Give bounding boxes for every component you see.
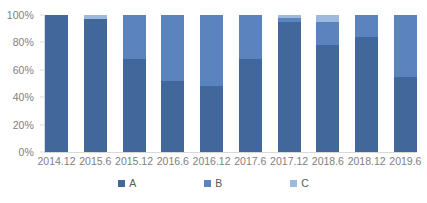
bar-group[interactable] bbox=[316, 15, 339, 152]
bar-segment-a[interactable] bbox=[161, 81, 184, 152]
y-axis: 100%80%60%40%20%0% bbox=[0, 0, 40, 203]
legend-item-a[interactable]: A bbox=[118, 178, 136, 189]
bar-group[interactable] bbox=[123, 15, 146, 152]
legend-label: B bbox=[215, 178, 222, 189]
y-tick-mark bbox=[40, 152, 44, 153]
x-tick-label: 2017.6 bbox=[239, 155, 262, 171]
y-tick-mark bbox=[40, 69, 44, 70]
bar-segment-a[interactable] bbox=[45, 15, 68, 152]
bar-segment-a[interactable] bbox=[239, 59, 262, 152]
bar-segment-a[interactable] bbox=[316, 45, 339, 152]
bar-group[interactable] bbox=[355, 15, 378, 152]
bar-segment-b[interactable] bbox=[316, 22, 339, 45]
y-tick-mark bbox=[40, 124, 44, 125]
x-tick-label: 2018.12 bbox=[355, 155, 378, 171]
x-tick-label: 2018.6 bbox=[316, 155, 339, 171]
x-tick-label-text: 2016.12 bbox=[193, 155, 231, 167]
bar-segment-a[interactable] bbox=[394, 77, 417, 152]
bar-segment-c[interactable] bbox=[316, 15, 339, 22]
x-tick-label-text: 2018.6 bbox=[312, 155, 344, 167]
x-axis: 2014.122015.62015.122016.62016.122017.62… bbox=[45, 155, 417, 171]
x-tick-label: 2015.6 bbox=[84, 155, 107, 171]
x-tick-label-text: 2014.12 bbox=[38, 155, 76, 167]
bar-group[interactable] bbox=[45, 15, 68, 152]
bar-group[interactable] bbox=[278, 15, 301, 152]
y-tick-label: 60% bbox=[13, 64, 34, 76]
x-tick-label: 2014.12 bbox=[45, 155, 68, 171]
bar-segment-b[interactable] bbox=[394, 15, 417, 77]
legend-label: A bbox=[129, 178, 136, 189]
y-tick-label: 100% bbox=[7, 9, 34, 21]
bar-segment-b[interactable] bbox=[123, 15, 146, 59]
x-tick-label: 2019.6 bbox=[394, 155, 417, 171]
chart-legend: ABC bbox=[0, 178, 427, 189]
bar-group[interactable] bbox=[200, 15, 223, 152]
bar-segment-a[interactable] bbox=[355, 37, 378, 152]
x-tick-label: 2015.12 bbox=[123, 155, 146, 171]
x-tick-label-text: 2017.6 bbox=[234, 155, 266, 167]
bar-segment-a[interactable] bbox=[84, 19, 107, 152]
y-tick-mark bbox=[40, 15, 44, 16]
bar-segment-a[interactable] bbox=[200, 86, 223, 152]
x-tick-label-text: 2017.12 bbox=[270, 155, 308, 167]
bar-segment-b[interactable] bbox=[239, 15, 262, 59]
bar-group[interactable] bbox=[84, 15, 107, 152]
stacked-percent-bar-chart: 100%80%60%40%20%0% 2014.122015.62015.122… bbox=[0, 0, 427, 203]
x-tick-label-text: 2015.6 bbox=[79, 155, 111, 167]
y-tick-label: 0% bbox=[19, 146, 34, 158]
bar-group[interactable] bbox=[394, 15, 417, 152]
bar-segment-a[interactable] bbox=[278, 22, 301, 152]
x-tick-label: 2016.12 bbox=[200, 155, 223, 171]
y-tick-mark bbox=[40, 97, 44, 98]
legend-item-c[interactable]: C bbox=[290, 178, 309, 189]
x-tick-label: 2017.12 bbox=[278, 155, 301, 171]
bar-group[interactable] bbox=[161, 15, 184, 152]
x-axis-line bbox=[44, 152, 417, 153]
x-tick-label-text: 2018.12 bbox=[348, 155, 386, 167]
legend-label: C bbox=[301, 178, 309, 189]
x-tick-label-text: 2016.6 bbox=[157, 155, 189, 167]
x-tick-label-text: 2015.12 bbox=[115, 155, 153, 167]
bar-segment-a[interactable] bbox=[123, 59, 146, 152]
bar-segment-b[interactable] bbox=[355, 15, 378, 37]
legend-item-b[interactable]: B bbox=[204, 178, 222, 189]
y-tick-mark bbox=[40, 42, 44, 43]
y-tick-label: 20% bbox=[13, 119, 34, 131]
x-tick-label-text: 2019.6 bbox=[389, 155, 421, 167]
bars-layer bbox=[45, 15, 417, 152]
bar-segment-b[interactable] bbox=[200, 15, 223, 86]
y-tick-label: 80% bbox=[13, 36, 34, 48]
legend-swatch-icon bbox=[118, 180, 125, 187]
legend-swatch-icon bbox=[204, 180, 211, 187]
bar-segment-b[interactable] bbox=[161, 15, 184, 81]
legend-swatch-icon bbox=[290, 180, 297, 187]
x-tick-label: 2016.6 bbox=[161, 155, 184, 171]
bar-group[interactable] bbox=[239, 15, 262, 152]
y-tick-label: 40% bbox=[13, 91, 34, 103]
